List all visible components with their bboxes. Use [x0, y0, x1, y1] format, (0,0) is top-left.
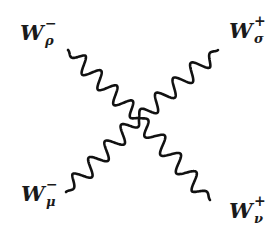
- boson-symbol: W: [229, 18, 253, 43]
- wavy-line-w-minus-mu: [66, 118, 139, 192]
- wavy-line-w-plus-sigma: [139, 50, 218, 118]
- wavy-line-w-plus-nu: [139, 118, 210, 200]
- charge-superscript: +: [254, 194, 266, 208]
- label-w-plus-nu: W + ν: [229, 200, 253, 221]
- index-subscript: σ: [254, 32, 264, 45]
- boson-symbol: W: [21, 181, 45, 206]
- boson-symbol: W: [20, 20, 44, 45]
- label-w-minus-mu: W − μ: [21, 183, 45, 204]
- wavy-line-w-minus-rho: [68, 50, 139, 118]
- label-w-minus-rho: W − ρ: [20, 22, 44, 43]
- charge-superscript: −: [45, 16, 57, 30]
- index-subscript: ρ: [45, 34, 54, 47]
- charge-superscript: +: [254, 14, 266, 28]
- charge-superscript: −: [46, 177, 58, 191]
- index-subscript: ν: [254, 212, 263, 225]
- index-subscript: μ: [46, 195, 56, 208]
- label-w-plus-sigma: W + σ: [229, 20, 253, 41]
- boson-symbol: W: [229, 198, 253, 223]
